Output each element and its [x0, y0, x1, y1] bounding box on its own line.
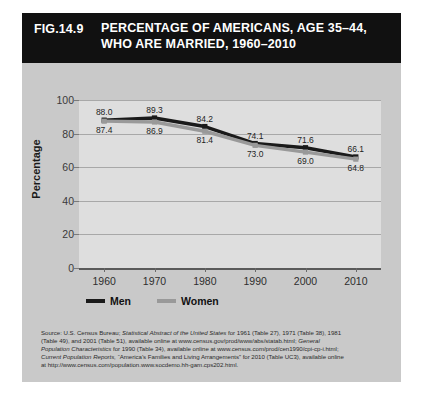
y-tick-mark [74, 134, 79, 135]
x-tick-label: 1960 [81, 275, 127, 287]
source-line-2: (Table 49), and 2001 (Table 51), availab… [41, 337, 391, 345]
y-tick-mark [74, 201, 79, 202]
data-point-marker [152, 119, 157, 124]
data-point-label: 73.0 [235, 149, 275, 159]
data-point-marker [202, 129, 207, 134]
data-point-label: 71.6 [286, 135, 326, 145]
data-point-label: 81.4 [185, 135, 225, 145]
x-tick-mark [104, 268, 105, 272]
chart-legend: Men Women [86, 295, 219, 307]
y-tick-label: 100 [48, 94, 74, 106]
data-point-marker [202, 124, 207, 129]
figure-title-line-1: PERCENTAGE OF AMERICANS, AGE 35–44, [101, 21, 391, 37]
legend-label-men: Men [110, 295, 131, 307]
figure-title-line-2: WHO ARE MARRIED, 1960–2010 [101, 37, 391, 53]
y-tick-label: 40 [48, 195, 74, 207]
data-point-marker [303, 149, 308, 154]
data-point-label: 74.1 [235, 131, 275, 141]
data-point-label: 87.4 [84, 125, 124, 135]
legend-swatch-men [86, 299, 105, 303]
data-point-label: 89.3 [135, 105, 175, 115]
x-tick-mark [155, 268, 156, 272]
y-tick-label: 0 [48, 262, 74, 274]
figure-title: PERCENTAGE OF AMERICANS, AGE 35–44, WHO … [101, 21, 391, 52]
y-tick-mark [74, 268, 79, 269]
x-tick-label: 1980 [182, 275, 228, 287]
y-tick-label: 80 [48, 128, 74, 140]
y-tick-label: 60 [48, 161, 74, 173]
legend-item-men: Men [86, 295, 131, 307]
x-tick-label: 2000 [283, 275, 329, 287]
figure-container: FIG.14.9 PERCENTAGE OF AMERICANS, AGE 35… [22, 13, 401, 382]
y-axis-title: Percentage [30, 114, 42, 224]
data-point-label: 64.8 [336, 163, 376, 173]
series-plot [79, 100, 381, 268]
data-point-label: 88.0 [84, 107, 124, 117]
y-tick-label: 20 [48, 228, 74, 240]
x-tick-label: 1990 [232, 275, 278, 287]
source-line-1: Source: U.S. Census Bureau; Statistical … [41, 329, 391, 337]
x-tick-label: 1970 [132, 275, 178, 287]
chart-area: Percentage 020406080100 Men Women 196019… [22, 63, 401, 325]
x-tick-mark [306, 268, 307, 272]
x-tick-mark [205, 268, 206, 272]
source-line-5: at http://www.census.com/population.www.… [41, 361, 391, 369]
x-tick-mark [356, 268, 357, 272]
data-point-marker [102, 119, 107, 124]
data-point-label: 84.2 [185, 114, 225, 124]
data-point-marker [253, 143, 258, 148]
legend-swatch-women [157, 299, 176, 303]
source-line-4: Current Population Reports, “America’s F… [41, 353, 391, 361]
legend-label-women: Women [181, 295, 219, 307]
figure-title-bar: FIG.14.9 PERCENTAGE OF AMERICANS, AGE 35… [22, 13, 401, 63]
x-tick-mark [255, 268, 256, 272]
data-point-label: 69.0 [286, 156, 326, 166]
y-axis-labels: 020406080100 [44, 100, 74, 268]
source-note: Source: U.S. Census Bureau; Statistical … [41, 329, 391, 369]
x-tick-label: 2010 [333, 275, 379, 287]
data-point-label: 66.1 [336, 144, 376, 154]
legend-item-women: Women [157, 295, 219, 307]
data-point-label: 86.9 [135, 126, 175, 136]
y-tick-mark [74, 234, 79, 235]
figure-number: FIG.14.9 [34, 22, 83, 36]
source-line-3: Population Characteristics for 1990 (Tab… [41, 345, 391, 353]
data-point-marker [353, 157, 358, 162]
y-tick-mark [74, 100, 79, 101]
y-tick-mark [74, 167, 79, 168]
x-axis-line [79, 268, 381, 270]
